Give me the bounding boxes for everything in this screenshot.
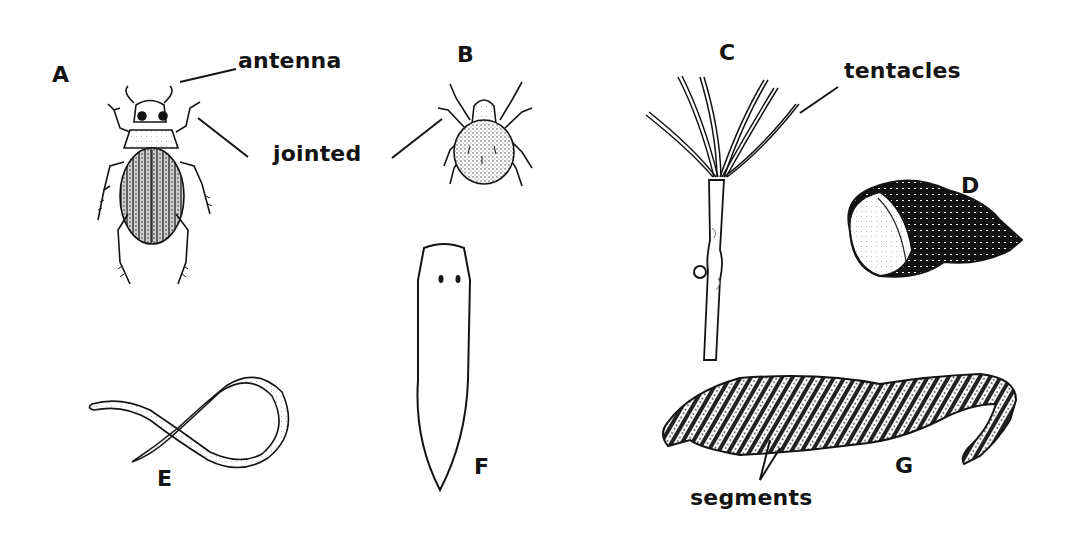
segmented-worm-illustration bbox=[663, 374, 1016, 464]
specimen-label-c: C bbox=[719, 42, 735, 64]
mite-illustration bbox=[438, 82, 532, 186]
beetle-illustration bbox=[98, 86, 212, 284]
snail-shell-illustration bbox=[848, 180, 1022, 276]
callout-tentacles: tentacles bbox=[844, 60, 961, 82]
specimen-label-f: F bbox=[474, 456, 489, 478]
specimen-label-b: B bbox=[457, 44, 474, 66]
specimen-label-g: G bbox=[895, 455, 913, 477]
roundworm-illustration bbox=[89, 377, 288, 467]
hydra-illustration bbox=[646, 76, 799, 360]
specimen-label-d: D bbox=[961, 175, 979, 197]
callout-jointed: jointed bbox=[273, 143, 361, 165]
tentacles-leader-line bbox=[800, 87, 838, 113]
specimen-diagram: A B C D E F G antenna jointed tentacles … bbox=[0, 0, 1081, 551]
callout-antenna: antenna bbox=[238, 50, 342, 72]
specimen-label-a: A bbox=[52, 64, 69, 86]
flatworm-illustration bbox=[417, 244, 470, 490]
specimen-label-e: E bbox=[157, 468, 172, 490]
callout-segments: segments bbox=[690, 487, 812, 509]
